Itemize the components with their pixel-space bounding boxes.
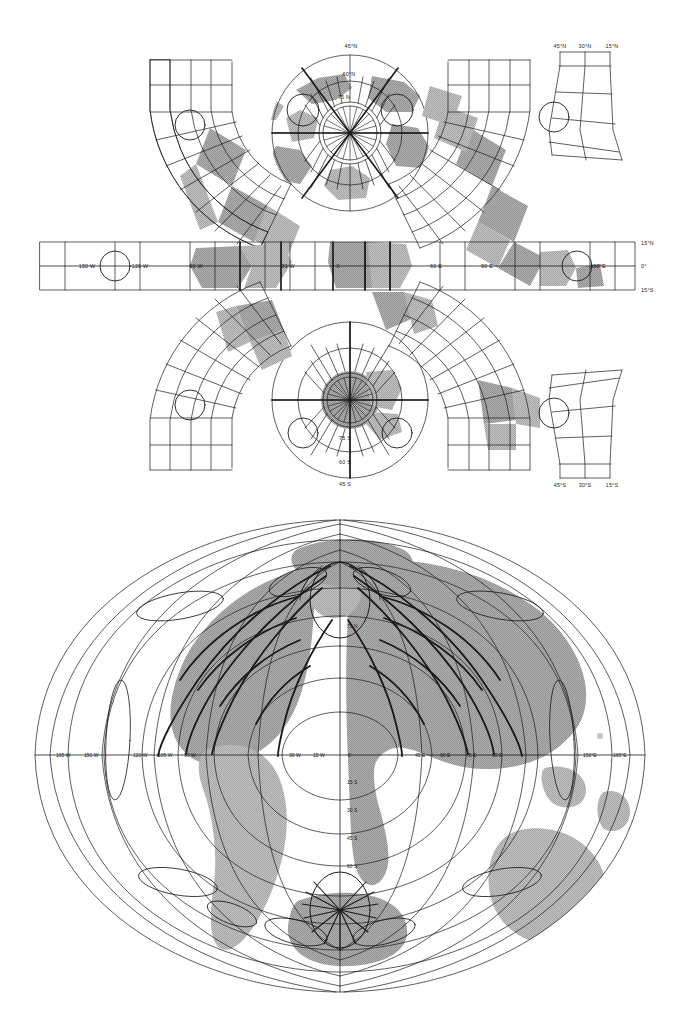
label-75e: 75 E: [466, 752, 477, 758]
label-spolar-75s: 75 S: [339, 435, 351, 441]
label-band-150e: 150°E: [590, 263, 606, 269]
label-0: 0: [348, 752, 351, 758]
label-15s: 15 S: [347, 779, 358, 785]
label-band-30w: 30 W: [281, 263, 295, 269]
label-45s: 45 S: [347, 835, 358, 841]
label-nrlobe-15n: 15°N: [606, 43, 619, 49]
label-15w: 15 W: [313, 752, 325, 758]
south-right-lobe: [372, 282, 622, 478]
label-120w: 120 W: [133, 752, 148, 758]
label-spolar-45s: 45 S: [339, 481, 351, 487]
label-npolar-45n: 45°N: [345, 43, 358, 49]
label-band-90e: 90 E: [481, 263, 493, 269]
label-165w: 165 W: [56, 752, 71, 758]
label-band-0: 0: [336, 263, 339, 269]
label-150e: 150°E: [583, 752, 597, 758]
label-band-15s: 15°S: [641, 287, 654, 293]
label-30w: 30 W: [289, 752, 301, 758]
south-polar-cap: [272, 322, 428, 478]
label-30s: 30 S: [347, 807, 358, 813]
label-band-150w: 150 W: [79, 263, 96, 269]
north-polar-cap: [252, 55, 430, 211]
label-60e: 60 E: [440, 752, 451, 758]
label-60s: 60 S: [347, 863, 358, 869]
label-band-120w: 120 W: [132, 263, 149, 269]
north-right-lobe: [389, 52, 622, 286]
label-spolar-60s: 60 S: [339, 459, 351, 465]
label-90e: 90 E: [492, 752, 503, 758]
label-105w: 105 W: [158, 752, 173, 758]
label-npolar-75n: 75 N: [338, 94, 350, 100]
label-npolar-60n: 60°N: [343, 71, 356, 77]
south-left-lobe: [150, 282, 292, 470]
label-45e: 45 E: [415, 752, 426, 758]
label-srlobe-30s: 30°S: [579, 482, 592, 488]
lower-projection-panel: 165 W 150 W 120 W 105 W 90 W 30 W 15 W 0…: [0, 500, 680, 1011]
label-75n: 75 N: [347, 623, 358, 629]
label-band-90w: 90 W: [189, 263, 203, 269]
label-nrlobe-45n: 45°N: [554, 43, 567, 49]
upper-projection-panel: 45°N 60°N 75 N 45°N 30°N 15°N 75 S 60 S …: [0, 0, 680, 500]
label-150w: 150 W: [84, 752, 99, 758]
label-band-15n: 15°N: [641, 240, 654, 246]
label-srlobe-15s: 15°S: [606, 482, 619, 488]
label-band-0deg: 0°: [641, 263, 647, 269]
map-projection-figure: 45°N 60°N 75 N 45°N 30°N 15°N 75 S 60 S …: [0, 0, 680, 1011]
label-90w: 90 W: [184, 752, 196, 758]
label-srlobe-45s: 45°S: [554, 482, 567, 488]
label-165e: 165°E: [613, 752, 627, 758]
label-nrlobe-30n: 30°N: [579, 43, 592, 49]
label-band-60e: 60 E: [430, 263, 442, 269]
